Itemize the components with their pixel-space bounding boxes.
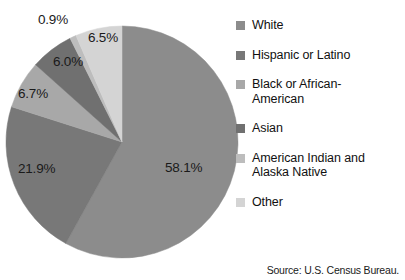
legend: White Hispanic or Latino Black or Africa… [236,18,404,224]
pie-chart: 58.1% 21.9% 6.7% 6.0% 0.9% 6.5% White Hi… [0,0,405,280]
slice-label-hispanic-or-latino: 21.9% [18,161,55,176]
slice-label-asian: 6.0% [53,54,83,69]
legend-swatch-other [236,198,245,207]
pie-plot-area: 58.1% 21.9% 6.7% 6.0% 0.9% 6.5% [0,0,248,280]
source-note: Source: U.S. Census Bureau. [267,264,399,276]
legend-label-black-or-african-american: Black or African-American [252,77,341,106]
legend-label-american-indian-and-alaska-native: American Indian andAlaska Native [252,151,365,180]
legend-label-white: White [252,18,283,33]
slice-label-other: 6.5% [88,30,118,45]
legend-item-american-indian-and-alaska-native[interactable]: American Indian andAlaska Native [236,151,404,180]
legend-item-asian[interactable]: Asian [236,121,404,136]
legend-item-black-or-african-american[interactable]: Black or African-American [236,77,404,106]
pie-slice-group [6,26,238,258]
legend-label-other: Other [252,195,283,210]
legend-swatch-black-or-african-american [236,80,245,89]
legend-label-hispanic-or-latino: Hispanic or Latino [252,48,350,63]
slice-label-american-indian-and-alaska-native: 0.9% [38,12,68,27]
legend-swatch-american-indian-and-alaska-native [236,154,245,163]
legend-swatch-asian [236,124,245,133]
slice-label-black-or-african-american: 6.7% [18,86,48,101]
legend-item-hispanic-or-latino[interactable]: Hispanic or Latino [236,48,404,63]
legend-item-other[interactable]: Other [236,195,404,210]
legend-item-white[interactable]: White [236,18,404,33]
legend-label-asian: Asian [252,121,283,136]
legend-swatch-hispanic-or-latino [236,51,245,60]
legend-swatch-white [236,21,245,30]
slice-label-white: 58.1% [165,160,202,175]
pie-svg [0,0,248,280]
